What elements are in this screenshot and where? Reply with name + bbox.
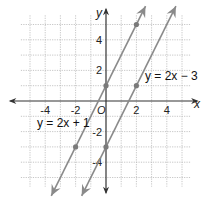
x-axis-label: x bbox=[193, 97, 201, 111]
data-point bbox=[134, 83, 139, 88]
x-tick-label: -2 bbox=[71, 104, 81, 116]
x-tick-label: 2 bbox=[133, 104, 139, 116]
y-tick-label: 4 bbox=[96, 34, 102, 46]
equation-label-line1: y = 2x + 1 bbox=[37, 116, 90, 130]
data-point bbox=[73, 144, 78, 149]
data-point bbox=[103, 83, 108, 88]
origin-label: O bbox=[97, 104, 106, 116]
x-tick-label: 4 bbox=[164, 104, 170, 116]
axes bbox=[9, 8, 199, 195]
x-tick-label: -4 bbox=[40, 104, 50, 116]
y-tick-label: 2 bbox=[96, 64, 102, 76]
data-point bbox=[134, 22, 139, 27]
equation-labels: y x O y = 2x + 1 y = 2x − 3 bbox=[37, 6, 201, 130]
data-point bbox=[103, 144, 108, 149]
y-tick-label: -2 bbox=[92, 126, 102, 138]
equation-label-line2: y = 2x − 3 bbox=[145, 69, 198, 83]
y-axis-label: y bbox=[95, 6, 103, 20]
coordinate-plane-chart: -4-22442-2-4 y x O y = 2x + 1 y = 2x − 3 bbox=[0, 0, 212, 199]
